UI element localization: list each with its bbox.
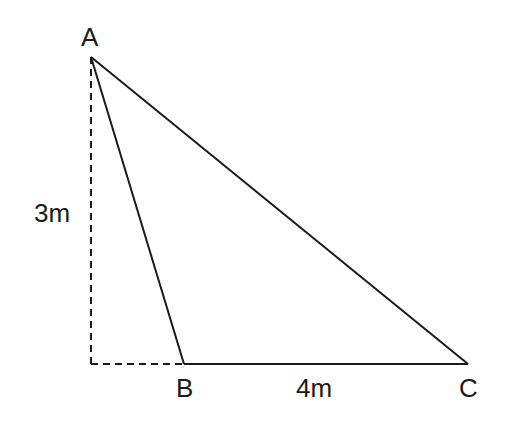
- vertex-label-c: C: [459, 373, 478, 403]
- height-measurement-label: 3m: [34, 198, 70, 228]
- base-measurement-label: 4m: [296, 373, 332, 403]
- side-ab: [91, 57, 184, 364]
- side-ac: [91, 57, 468, 364]
- triangle-diagram: A B C 3m 4m: [0, 0, 508, 428]
- vertex-label-a: A: [81, 22, 99, 52]
- vertex-label-b: B: [176, 373, 193, 403]
